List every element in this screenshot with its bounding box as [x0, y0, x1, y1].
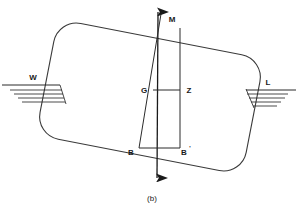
label-point-b: B — [128, 148, 134, 157]
label-point-z: Z — [187, 86, 192, 95]
hull-outline — [36, 19, 265, 175]
hull-group — [36, 19, 265, 175]
waterline-left-label: W — [29, 73, 37, 82]
waterline-right-hatch-edge — [246, 89, 254, 108]
figure-caption: (b) — [147, 194, 157, 203]
ship-stability-diagram: W L M — [0, 0, 298, 205]
waterline-left-hatch-edge — [60, 85, 66, 104]
label-point-bprime: B — [181, 148, 187, 157]
label-point-bprime-mark: ' — [189, 145, 191, 151]
waterline-right-label: L — [266, 78, 271, 87]
label-point-bprime-group: B ' — [181, 145, 191, 157]
figure-canvas: W L M — [0, 0, 298, 205]
waterline-right-group: L — [246, 78, 296, 108]
label-point-g: G — [141, 86, 147, 95]
waterline-left-group: W — [2, 73, 66, 104]
label-point-m: M — [169, 15, 176, 24]
